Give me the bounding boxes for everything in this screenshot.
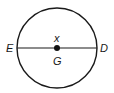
circle-figure: E D x G — [0, 0, 114, 93]
label-g: G — [53, 55, 62, 67]
geometry-diagram: E D x G — [0, 0, 114, 93]
label-e: E — [6, 42, 14, 54]
center-point-g — [54, 45, 60, 51]
label-x: x — [53, 32, 60, 44]
label-d: D — [100, 42, 108, 54]
